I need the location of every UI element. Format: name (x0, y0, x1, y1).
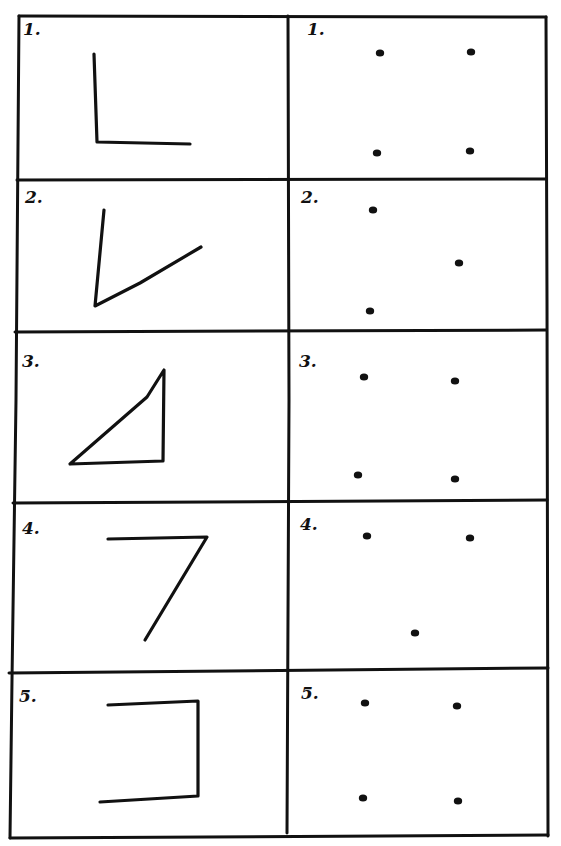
dot-patterns (354, 48, 475, 804)
figure-2-stroke (95, 210, 201, 306)
dot-3-1 (360, 373, 368, 380)
figure-label-3: 3. (22, 353, 40, 370)
dot-1-4 (466, 147, 474, 154)
dot-4-3 (411, 629, 419, 636)
dots-label-1: 1. (307, 21, 325, 38)
dot-3-3 (354, 471, 362, 478)
figure-3-stroke (70, 370, 164, 464)
dot-5-3 (359, 794, 367, 801)
dot-2-3 (366, 307, 374, 314)
figure-5-stroke (100, 701, 198, 802)
figure-label-4: 4. (22, 520, 40, 537)
worksheet-sheet (0, 0, 561, 846)
row-divider-2 (15, 330, 546, 332)
figure-4-stroke (108, 537, 207, 640)
figure-strokes (70, 54, 207, 802)
dots-label-4: 4. (300, 516, 318, 533)
dot-2-1 (369, 206, 377, 213)
grid-lines (9, 16, 548, 838)
border-top (19, 16, 546, 17)
dot-1-3 (373, 149, 381, 156)
dot-5-4 (454, 797, 462, 804)
row-divider-3 (13, 500, 547, 503)
dot-5-2 (453, 702, 461, 709)
dot-4-2 (466, 534, 474, 541)
dot-3-2 (451, 377, 459, 384)
border-bottom (10, 835, 548, 838)
figure-1-stroke (94, 54, 190, 144)
dot-3-4 (451, 475, 459, 482)
row-divider-1 (17, 179, 546, 180)
column-divider (287, 16, 289, 833)
row-divider-4 (9, 668, 548, 673)
dot-4-1 (363, 532, 371, 539)
figure-label-1: 1. (23, 21, 41, 38)
border-right (546, 17, 548, 836)
dot-5-1 (361, 699, 369, 706)
dot-1-1 (376, 49, 384, 56)
dots-label-3: 3. (299, 353, 317, 370)
dot-2-2 (455, 259, 463, 266)
border-left (10, 16, 19, 838)
figure-label-2: 2. (25, 189, 43, 206)
dots-label-5: 5. (301, 685, 319, 702)
dot-1-2 (467, 48, 475, 55)
dots-label-2: 2. (301, 189, 319, 206)
figure-label-5: 5. (19, 688, 37, 705)
